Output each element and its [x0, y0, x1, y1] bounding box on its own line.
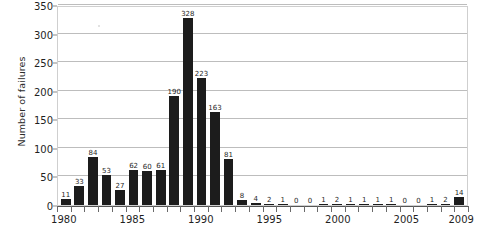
bar-value-label: 1 — [348, 196, 352, 204]
bar-slot: 8 — [235, 7, 249, 205]
x-tick-mark — [413, 206, 414, 212]
bar-slot: 4 — [249, 7, 263, 205]
x-tick-mark — [208, 206, 209, 212]
x-tick-mark — [221, 206, 222, 212]
bar-slot: 60 — [140, 7, 154, 205]
bar-value-label: 0 — [416, 197, 420, 205]
bar-slot: 2 — [262, 7, 276, 205]
x-tick-mark — [167, 206, 168, 212]
x-tick-label: 1980 — [51, 214, 76, 225]
x-tick-label: 2005 — [394, 214, 419, 225]
bar: 53 — [102, 175, 112, 205]
bar: 1 — [346, 204, 356, 205]
x-tick-mark — [290, 206, 291, 212]
x-tick-mark — [400, 206, 401, 212]
bar-slot: 61 — [154, 7, 168, 205]
x-tick-mark — [427, 206, 428, 212]
bar-value-label: 84 — [88, 149, 97, 157]
x-axis-ticks — [57, 206, 468, 213]
bar-slot: 2 — [330, 7, 344, 205]
bar-slot: 1 — [371, 7, 385, 205]
bar-slot: 223 — [195, 7, 209, 205]
bar: 223 — [197, 78, 207, 205]
bar: 1 — [427, 204, 437, 205]
bar-slot: 1 — [425, 7, 439, 205]
bar-value-label: 328 — [181, 10, 194, 18]
y-tick-label: 350 — [34, 1, 53, 12]
x-tick-label: 2000 — [325, 214, 350, 225]
bar: 163 — [210, 112, 220, 205]
bar: 27 — [115, 190, 125, 205]
bar-slot: 0 — [303, 7, 317, 205]
bar-value-label: 223 — [195, 70, 208, 78]
bar: 14 — [454, 197, 464, 205]
y-tick-label: 100 — [34, 143, 53, 154]
x-tick-mark — [263, 206, 264, 212]
x-tick-label: 1985 — [120, 214, 145, 225]
y-axis-ticks: 050100150200250300350 — [0, 0, 57, 213]
x-tick-mark — [194, 206, 195, 212]
bar: 1 — [386, 204, 396, 205]
bar: 84 — [88, 157, 98, 205]
bar-value-label: 60 — [143, 163, 152, 171]
bar-slot: 0 — [412, 7, 426, 205]
x-tick-mark — [441, 206, 442, 212]
x-tick-mark — [331, 206, 332, 212]
bar-slot: 84 — [86, 7, 100, 205]
bar: 1 — [373, 204, 383, 205]
bar-value-label: 1 — [321, 196, 325, 204]
bar-slot: 2 — [439, 7, 453, 205]
bar-value-label: 0 — [403, 197, 407, 205]
x-tick-mark — [304, 206, 305, 212]
bar: 81 — [224, 159, 234, 205]
bar-value-label: 163 — [208, 104, 221, 112]
bar-slot: 53 — [100, 7, 114, 205]
x-tick-mark — [386, 206, 387, 212]
bar-value-label: 27 — [116, 182, 125, 190]
x-tick-mark — [98, 206, 99, 212]
bar: 8 — [237, 200, 247, 205]
bar-value-label: 61 — [156, 162, 165, 170]
bar-slot: 62 — [127, 7, 141, 205]
x-tick-mark — [153, 206, 154, 212]
bar-value-label: 2 — [267, 196, 271, 204]
x-tick-mark — [84, 206, 85, 212]
bar-slot: 1 — [344, 7, 358, 205]
bar: 1 — [319, 204, 329, 205]
bar-value-label: 4 — [253, 195, 257, 203]
x-tick-mark — [358, 206, 359, 212]
bar-slot: 1 — [385, 7, 399, 205]
y-tick-label: 250 — [34, 58, 53, 69]
bar-slot: 1 — [276, 7, 290, 205]
x-tick-mark — [345, 206, 346, 212]
x-tick-label: 1995 — [257, 214, 282, 225]
bar-series: 1133845327626061190328223163818421001211… — [58, 7, 467, 205]
bar: 60 — [142, 171, 152, 205]
x-tick-mark — [112, 206, 113, 212]
bar-slot: 81 — [222, 7, 236, 205]
bar-value-label: 62 — [129, 162, 138, 170]
bar: 1 — [278, 204, 288, 205]
bar-value-label: 190 — [168, 88, 181, 96]
bar-value-label: 1 — [430, 196, 434, 204]
bar-slot: 27 — [113, 7, 127, 205]
bar: 328 — [183, 18, 193, 205]
bar-slot: 33 — [73, 7, 87, 205]
x-tick-mark — [276, 206, 277, 212]
bar-value-label: 2 — [443, 196, 447, 204]
bar: 2 — [332, 204, 342, 205]
x-tick-label: 2009 — [448, 214, 473, 225]
bar-value-label: 8 — [240, 192, 244, 200]
bar: 190 — [169, 96, 179, 205]
bar-slot: 190 — [168, 7, 182, 205]
x-tick-mark — [468, 206, 469, 212]
x-tick-mark — [180, 206, 181, 212]
bar-value-label: 2 — [335, 196, 339, 204]
bar-value-label: 53 — [102, 167, 111, 175]
gridline — [58, 4, 467, 5]
scan-artifact — [98, 25, 100, 27]
bar-slot: 328 — [181, 7, 195, 205]
bar-slot: 0 — [290, 7, 304, 205]
y-tick-label: 200 — [34, 86, 53, 97]
bar-value-label: 33 — [75, 178, 84, 186]
